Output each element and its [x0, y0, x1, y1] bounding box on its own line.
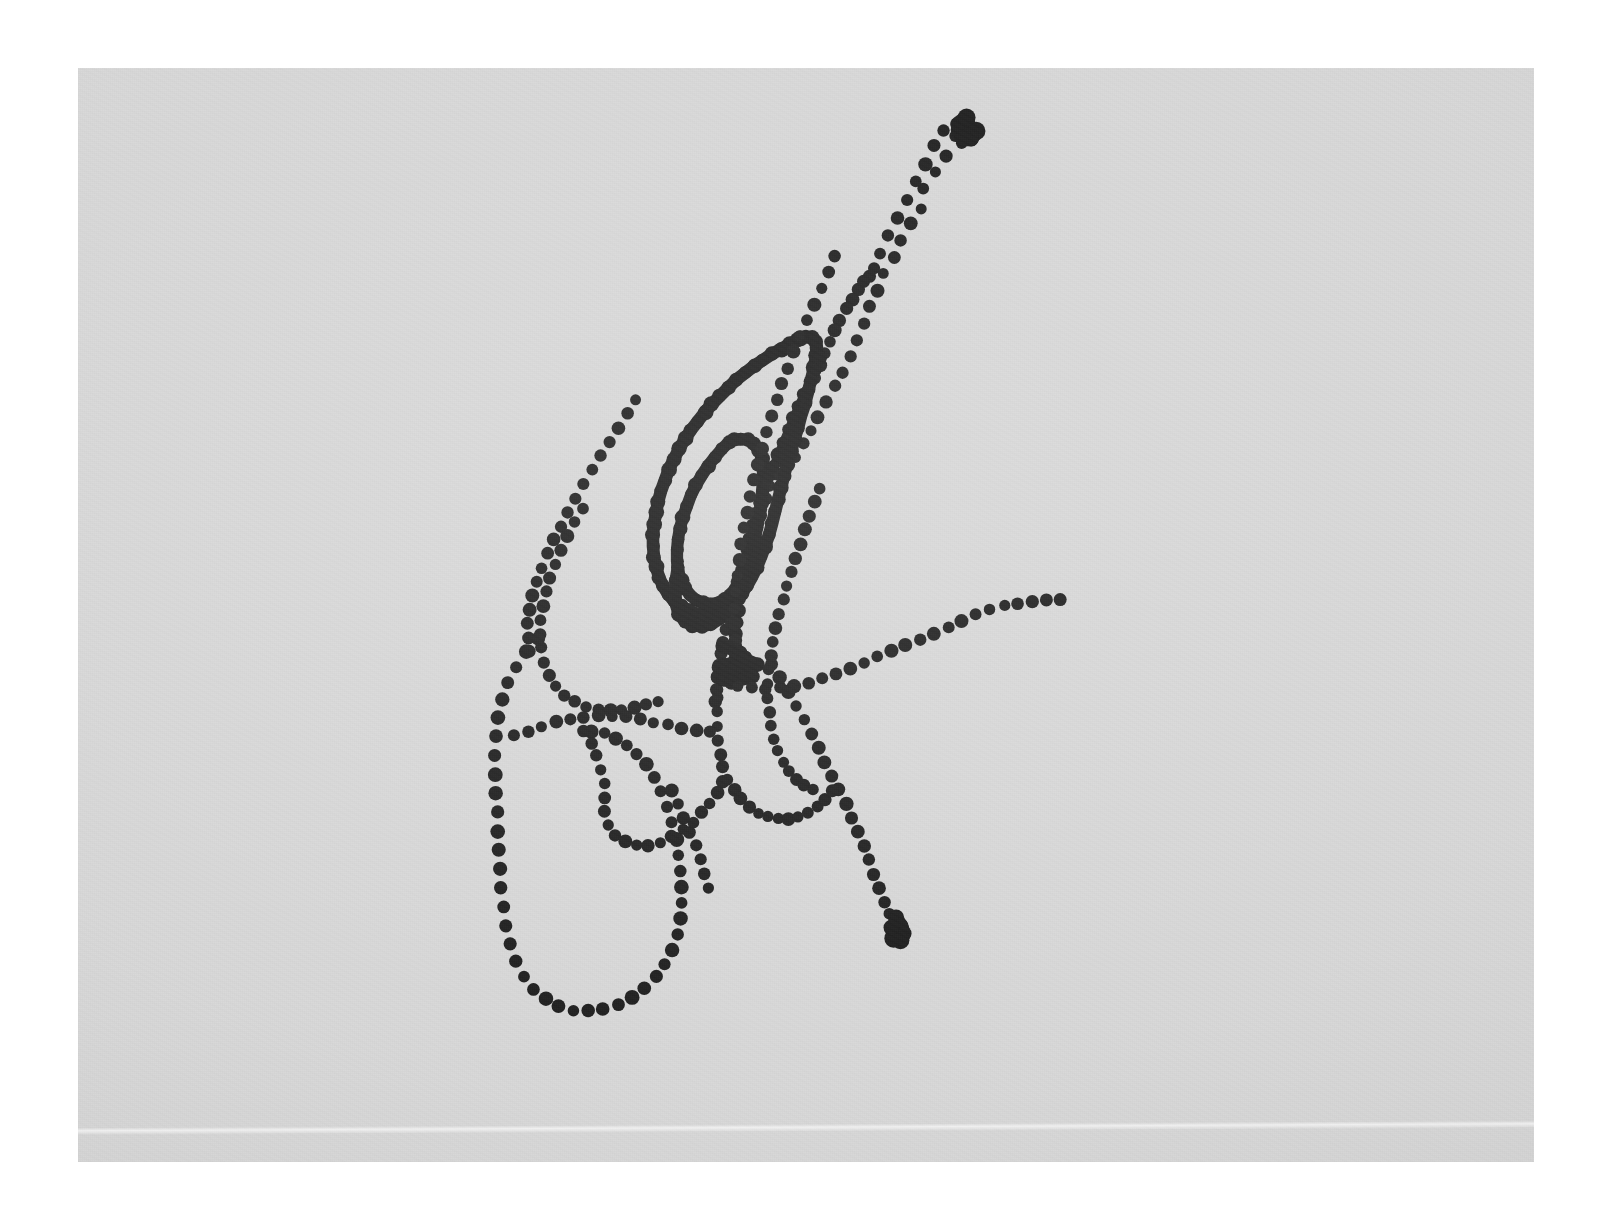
strobe-dot [741, 506, 755, 520]
strobe-dot [733, 553, 747, 567]
strobe-dot [527, 983, 540, 996]
strobe-dot [764, 706, 777, 719]
strobe-dot [797, 388, 810, 401]
strobe-dot [927, 139, 940, 152]
strobe-dot [674, 880, 689, 895]
strobe-dot [665, 830, 678, 843]
trace-series [577, 725, 729, 853]
strobe-dot [765, 649, 778, 662]
strobe-dot [814, 483, 826, 495]
strobe-dot [536, 599, 550, 613]
strobe-dot [508, 729, 520, 741]
strobe-dot [561, 506, 573, 518]
strobe-dot [777, 437, 789, 449]
strobe-dot [568, 1005, 580, 1017]
strobe-dot [871, 651, 883, 663]
strobe-dot [872, 881, 886, 895]
strobe-dot [676, 897, 688, 909]
strobe-dot [727, 432, 741, 446]
strobe-dot [585, 737, 598, 750]
strobe-dot [504, 937, 517, 950]
strobe-dot [594, 449, 606, 461]
strobe-dot [786, 344, 800, 358]
strobe-dot [984, 604, 995, 615]
strobe-dot [543, 669, 556, 682]
strobe-dot [568, 695, 581, 708]
strobe-dot [845, 811, 858, 824]
strobe-dot [596, 1002, 610, 1016]
strobe-dot [641, 839, 654, 852]
strobe-dot [577, 503, 589, 515]
strobe-dot [493, 862, 507, 876]
strobe-dot [648, 771, 661, 784]
strobe-dot [898, 638, 912, 652]
strobe-dot [703, 882, 714, 893]
strobe-dot [807, 784, 819, 796]
strobe-dot [547, 533, 561, 547]
strobe-dot [792, 811, 803, 822]
strobe-dot [775, 377, 788, 390]
strobe-dot [798, 522, 812, 536]
strobe-dot [738, 522, 750, 534]
strobe-dot [805, 728, 818, 741]
strobe-dot [519, 644, 534, 659]
strobe-dot [772, 670, 786, 684]
strobe-dot [690, 839, 702, 851]
strobe-dot [569, 493, 581, 505]
strobe-dot [888, 251, 901, 264]
strobe-dot [768, 734, 780, 746]
strobe-dot [550, 681, 561, 692]
strobe-dot [816, 283, 827, 294]
strobe-dot [714, 748, 727, 761]
strobe-dot [786, 411, 799, 424]
strobe-dot [666, 816, 678, 828]
strobe-dot [763, 528, 776, 541]
strobe-dot [858, 657, 869, 668]
strobe-dot [612, 421, 626, 435]
strobe-dot [598, 792, 611, 805]
strobe-dot [630, 748, 642, 760]
strobe-dot [954, 614, 968, 628]
trace-series [790, 130, 975, 463]
strobe-dot [711, 706, 722, 717]
strobe-dot [599, 778, 611, 790]
strobe-dot [523, 603, 537, 617]
strobe-dot [810, 365, 822, 377]
strobe-dot [817, 755, 831, 769]
strobe-dot [618, 834, 632, 848]
strobe-dot [772, 745, 783, 756]
strobe-dot [665, 943, 679, 957]
strobe-dot [863, 300, 876, 313]
strobe-dot [757, 484, 769, 496]
strobe-dot [762, 678, 773, 689]
strobe-dot [767, 460, 780, 473]
strobe-dot [540, 585, 552, 597]
strobe-dot [661, 801, 673, 813]
strobe-dot [716, 760, 729, 773]
strobe-dot [882, 229, 894, 241]
strobe-dot [884, 644, 898, 658]
strobe-dot [999, 600, 1010, 611]
trace-series [488, 632, 689, 1018]
strobe-dot [653, 696, 664, 707]
strobe-dot [839, 797, 853, 811]
strobe-dot [494, 881, 507, 894]
strobe-dot [927, 627, 941, 641]
strobe-dot [768, 505, 781, 518]
strobe-dot [785, 566, 797, 578]
strobe-dot [675, 722, 689, 736]
strobe-dot [603, 819, 614, 830]
strobe-dot [672, 798, 683, 809]
strobe-dot [778, 593, 790, 605]
strobe-dot [536, 721, 547, 732]
strobe-dot [813, 350, 827, 364]
strobe-dot [712, 692, 724, 704]
strobe-dot [599, 727, 611, 739]
strobe-dot [805, 425, 816, 436]
strobe-dot [539, 991, 554, 1006]
strobe-dot [802, 807, 814, 819]
strobe-dot [858, 318, 870, 330]
strobe-dot [816, 672, 828, 684]
strobe-dot [891, 211, 905, 225]
strobe-dot [744, 490, 757, 503]
